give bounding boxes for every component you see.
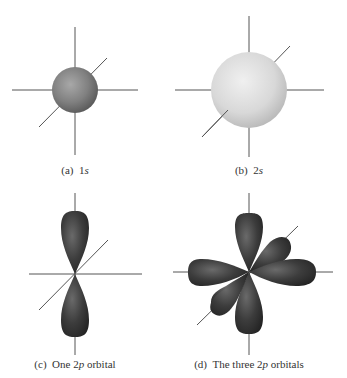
caption-c-suffix: orbital — [84, 358, 115, 370]
caption-d: (d) The three 2p orbitals — [194, 358, 304, 370]
atomic-orbitals-figure — [0, 0, 347, 378]
panel-c-2p-orbital — [29, 193, 142, 355]
2s-sphere — [211, 52, 287, 128]
caption-c-prefix: One 2 — [52, 358, 79, 370]
caption-d-prefix: The three 2 — [212, 358, 262, 370]
caption-a-italic: s — [84, 164, 88, 176]
caption-b-italic: s — [259, 164, 263, 176]
caption-b: (b) 2s — [235, 164, 263, 176]
caption-c-label: (c) — [34, 358, 46, 370]
caption-a: (a) 1s — [61, 164, 89, 176]
y-axis-front — [202, 110, 228, 137]
caption-b-label: (b) — [235, 164, 248, 176]
2p-lobe-upper — [61, 211, 89, 274]
caption-a-label: (a) — [61, 164, 73, 176]
panel-d-three-2p-orbitals — [173, 193, 333, 355]
caption-d-label: (d) — [194, 358, 207, 370]
caption-c: (c) One 2p orbital — [34, 358, 115, 370]
1s-sphere — [52, 67, 98, 113]
panel-a-1s-orbital — [12, 27, 138, 155]
caption-d-suffix: orbitals — [268, 358, 304, 370]
panel-b-2s-orbital — [175, 16, 324, 157]
